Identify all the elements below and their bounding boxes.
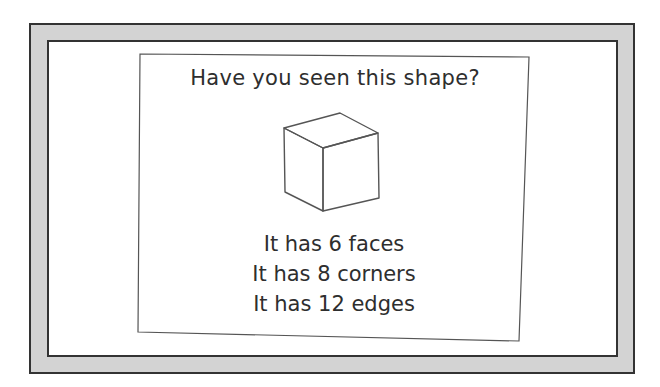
fact-edges: It has 12 edges: [140, 289, 528, 319]
card-title: Have you seen this shape?: [140, 66, 530, 90]
facts-list: It has 6 faces It has 8 corners It has 1…: [140, 229, 528, 319]
paper-sheet: [0, 0, 660, 387]
fact-corners: It has 8 corners: [140, 259, 528, 289]
fact-faces: It has 6 faces: [140, 229, 528, 259]
